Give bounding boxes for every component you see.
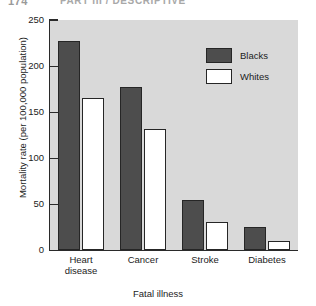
bar-diabetes-whites [268,241,290,250]
bar-cancer-blacks [120,87,142,250]
x-axis-tick-label-line: disease [41,265,121,276]
legend-swatch-whites [206,69,232,84]
legend-entry-whites: Whites [206,69,269,84]
bar-heart-disease-blacks [58,41,80,250]
legend: Blacks Whites [206,48,269,90]
y-axis-line [49,19,50,251]
x-axis-tick-label: Diabetes [227,254,307,265]
bar-stroke-whites [206,222,228,250]
y-axis-tick [50,66,58,67]
y-axis-tick [50,20,58,21]
page-header-strip: 174 PART III / DESCRIPTIVE [8,0,298,11]
y-axis-tick-label: 0 [0,245,44,255]
y-axis-tick [50,250,58,251]
bar-cancer-whites [144,129,166,250]
x-axis-line [49,250,298,251]
running-head: PART III / DESCRIPTIVE [60,0,186,6]
y-axis-tick [50,158,58,159]
y-axis-tick [50,204,58,205]
bar-stroke-blacks [182,200,204,250]
page-folio-number: 174 [8,0,28,7]
y-axis-tick [50,112,58,113]
legend-entry-blacks: Blacks [206,48,269,63]
legend-swatch-blacks [206,48,232,63]
y-axis-title: Mortality rate (per 100,000 population) [17,23,28,213]
x-axis-title: Fatal illness [0,288,316,299]
figure-bar-chart-mortality: 174 PART III / DESCRIPTIVE 0501001502002… [0,0,316,306]
bar-heart-disease-whites [82,98,104,250]
legend-label-whites: Whites [240,71,269,82]
bar-diabetes-blacks [244,227,266,250]
legend-label-blacks: Blacks [240,50,268,61]
x-axis-tick-label-line: Diabetes [227,254,307,265]
